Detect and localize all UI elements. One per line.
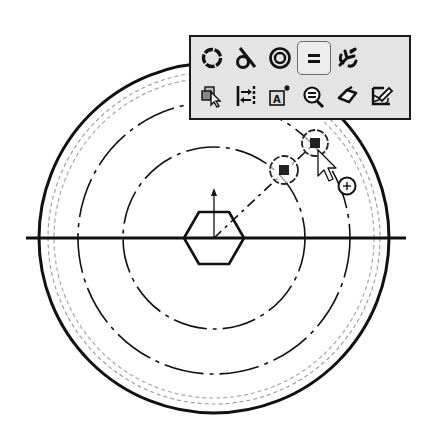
cursor-add-badge-icon — [339, 178, 356, 195]
smart-dimension-button[interactable]: A Smart Dimension — [263, 79, 297, 113]
sketch-tag-button[interactable]: Tag — [331, 79, 365, 113]
zoom-to-selection-button[interactable]: Zoom to Selection — [297, 79, 331, 113]
selected-point-1[interactable] — [270, 156, 298, 184]
annotation-text-icon: A — [267, 83, 293, 109]
tag-icon — [335, 83, 361, 109]
mouse-cursor — [318, 150, 336, 181]
concentric-relation-button[interactable]: Concentric — [263, 41, 297, 75]
fix-relation-button[interactable]: Fix — [331, 41, 365, 75]
edit-sketch-button[interactable]: Edit Sketch — [365, 79, 399, 113]
anchor-fix-icon — [335, 45, 361, 71]
zoom-equal-icon — [301, 83, 327, 109]
concentric-circles-icon — [267, 45, 293, 71]
edit-sketch-icon — [369, 83, 395, 109]
svg-text:A: A — [273, 94, 281, 105]
select-other-button[interactable]: Select Other — [195, 79, 229, 113]
select-other-icon — [199, 83, 225, 109]
construction-line[interactable] — [214, 140, 318, 238]
equal-icon — [301, 45, 327, 71]
coradial-relation-button[interactable]: Coradial — [195, 41, 229, 75]
construction-geometry-button[interactable]: Construction Geometry — [229, 79, 263, 113]
origin-arrowhead — [211, 188, 217, 196]
equal-relation-button[interactable]: Equal — [297, 41, 331, 75]
selected-point-2[interactable] — [302, 130, 328, 156]
tangent-icon — [233, 45, 259, 71]
tangent-relation-button[interactable]: Tangent — [229, 41, 263, 75]
construction-geometry-icon — [233, 83, 259, 109]
context-toolbar: Coradial Tangent Concentric Equal — [189, 35, 411, 120]
dashed-circle-icon — [199, 45, 225, 71]
